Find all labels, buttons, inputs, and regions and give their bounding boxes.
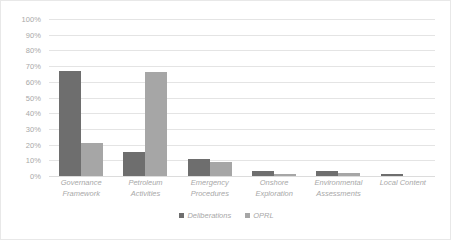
x-axis-category-label: OnshoreExploration xyxy=(242,178,306,200)
x-axis-category-label: Local Content xyxy=(371,178,435,200)
gridline xyxy=(49,176,435,177)
y-axis-tick-label: 10% xyxy=(26,156,41,165)
y-axis-tick-label: 80% xyxy=(26,46,41,55)
x-axis: GovernanceFrameworkPetroleumActivitiesEm… xyxy=(49,178,435,200)
legend-swatch-icon xyxy=(245,213,250,218)
y-axis-tick-label: 60% xyxy=(26,77,41,86)
y-axis-tick-label: 20% xyxy=(26,140,41,149)
y-axis-tick-label: 0% xyxy=(30,172,41,181)
legend-label: Deliberations xyxy=(187,211,231,220)
x-axis-category-label: GovernanceFramework xyxy=(49,178,113,200)
x-axis-category-label: PetroleumActivities xyxy=(113,178,177,200)
bar[interactable] xyxy=(210,162,232,176)
bar[interactable] xyxy=(123,152,145,176)
bar[interactable] xyxy=(59,71,81,176)
bar[interactable] xyxy=(338,173,360,176)
bar[interactable] xyxy=(381,174,403,176)
bar-group xyxy=(178,19,242,176)
bar-chart-card: 100%90%80%70%60%50%40%30%20%10%0% Govern… xyxy=(0,0,451,240)
bar-group xyxy=(113,19,177,176)
bar[interactable] xyxy=(252,171,274,176)
y-axis-tick-label: 30% xyxy=(26,124,41,133)
y-axis-tick-label: 40% xyxy=(26,109,41,118)
bar[interactable] xyxy=(274,174,296,176)
y-axis-tick-label: 100% xyxy=(21,15,41,24)
y-axis-tick-label: 50% xyxy=(26,93,41,102)
bar-group xyxy=(242,19,306,176)
x-axis-category-label: EmergencyProcedures xyxy=(178,178,242,200)
x-axis-category-label: EnvironmentalAssessments xyxy=(306,178,370,200)
legend-item[interactable]: OPRL xyxy=(245,211,273,220)
bars-layer xyxy=(49,19,435,176)
legend-item[interactable]: Deliberations xyxy=(179,211,231,220)
chart-legend: DeliberationsOPRL xyxy=(1,211,451,220)
bar-group xyxy=(306,19,370,176)
bar[interactable] xyxy=(188,159,210,176)
bar[interactable] xyxy=(81,143,103,176)
y-axis-tick-label: 70% xyxy=(26,62,41,71)
legend-swatch-icon xyxy=(179,213,184,218)
y-axis: 100%90%80%70%60%50%40%30%20%10%0% xyxy=(1,19,45,176)
bar[interactable] xyxy=(316,171,338,176)
bar-group xyxy=(371,19,435,176)
y-axis-tick-label: 90% xyxy=(26,30,41,39)
bar-group xyxy=(49,19,113,176)
bar[interactable] xyxy=(145,72,167,176)
legend-label: OPRL xyxy=(253,211,273,220)
